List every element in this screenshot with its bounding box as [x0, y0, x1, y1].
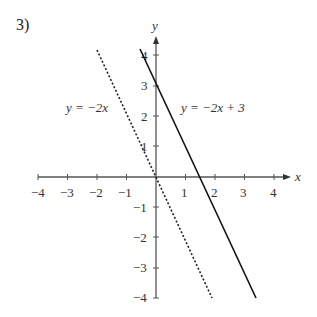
- x-tick-label: −4: [31, 185, 45, 200]
- x-tick-label: −1: [118, 185, 132, 200]
- dashed-line-annotation: y = −2x: [64, 100, 108, 115]
- y-axis-label: y: [150, 18, 158, 33]
- y-tick-label: 3: [141, 78, 148, 93]
- x-axis-arrow-icon: [283, 174, 291, 180]
- y-tick-label: −3: [133, 260, 147, 275]
- line-y-neg2x-plus3-solid: [140, 49, 256, 298]
- y-tick-label: −2: [133, 230, 147, 245]
- x-axis: x −4 −3 −2 −1 1 2 3 4: [31, 169, 301, 200]
- x-tick-label: −3: [60, 185, 74, 200]
- x-axis-label: x: [294, 169, 301, 184]
- y-tick-label: 2: [141, 109, 148, 124]
- y-tick-label: −1: [133, 200, 147, 215]
- x-tick-label: 2: [211, 185, 218, 200]
- y-tick-label: −4: [133, 290, 147, 305]
- problem-label: 3): [16, 16, 29, 34]
- x-tick-label: 1: [181, 185, 188, 200]
- x-tick-label: 4: [270, 185, 277, 200]
- x-tick-label: 3: [240, 185, 247, 200]
- solid-line-annotation: y = −2x + 3: [179, 100, 245, 115]
- y-axis-arrow-icon: [153, 36, 159, 44]
- x-tick-label: −2: [89, 185, 103, 200]
- coordinate-plane: 3) x −4 −3 −2 −1 1 2 3 4 y: [0, 0, 317, 317]
- line-y-neg2x-dashed: [97, 50, 212, 298]
- y-tick-label: 4: [141, 48, 148, 63]
